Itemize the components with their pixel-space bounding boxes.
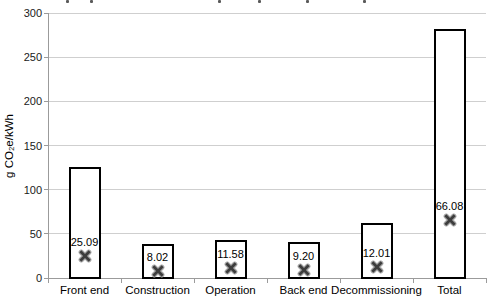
x-marker	[151, 264, 164, 277]
gridline	[48, 57, 486, 58]
y-axis-tick-label: 50	[8, 228, 42, 240]
range-box	[434, 29, 466, 279]
category-label: Construction	[125, 284, 190, 297]
x-axis-tick	[413, 279, 414, 283]
y-axis-tick-label: 100	[8, 184, 42, 196]
category-label: Decommissioning	[331, 284, 422, 297]
gridline	[48, 233, 486, 234]
category-label: Total	[437, 284, 461, 297]
gridline	[48, 13, 486, 14]
category-label: Operation	[205, 284, 256, 297]
cropped-title-fragment	[363, 0, 366, 3]
chart-figure: g CO₂e/kWh 050100150200250300Front endCo…	[0, 0, 489, 299]
cropped-title-fragment	[306, 0, 309, 3]
mean-value-label: 66.08	[428, 200, 472, 212]
gridline	[48, 189, 486, 190]
y-axis-tick-label: 0	[8, 272, 42, 284]
mean-value-label: 8.02	[136, 251, 180, 263]
y-axis-tick-label: 300	[8, 7, 42, 19]
mean-value-label: 11.58	[209, 248, 253, 260]
mean-value-label: 12.01	[355, 247, 399, 259]
y-axis-line	[48, 13, 49, 278]
x-axis-tick	[267, 279, 268, 283]
cropped-title-fragment	[90, 0, 93, 3]
cropped-title-fragment	[258, 0, 261, 3]
x-axis-tick	[340, 279, 341, 283]
x-marker	[370, 261, 383, 274]
gridline	[48, 101, 486, 102]
gridline	[48, 145, 486, 146]
x-marker	[443, 213, 456, 226]
mean-value-label: 25.09	[63, 236, 107, 248]
y-axis-tick-label: 250	[8, 51, 42, 63]
mean-value-label: 9.20	[282, 250, 326, 262]
x-axis-tick	[121, 279, 122, 283]
y-axis-tick-label: 200	[8, 95, 42, 107]
x-axis-tick	[194, 279, 195, 283]
cropped-title-fragment	[66, 0, 69, 3]
cropped-title-fragment	[218, 0, 221, 3]
x-axis-tick	[486, 279, 487, 283]
category-label: Back end	[280, 284, 328, 297]
plot-area: 050100150200250300Front endConstructionO…	[0, 0, 489, 299]
x-axis-tick	[48, 279, 49, 283]
y-axis-tick-label: 150	[8, 140, 42, 152]
category-label: Front end	[60, 284, 109, 297]
x-marker	[78, 249, 91, 262]
x-marker	[224, 261, 237, 274]
x-marker	[297, 263, 310, 276]
